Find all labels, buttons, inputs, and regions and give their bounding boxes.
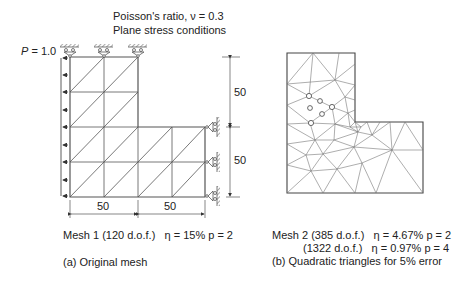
node-circle-icon [308,120,313,125]
roller-support-icon [206,152,220,172]
plane-stress-label: Plane stress conditions [113,24,226,37]
mesh2-caption-p2: Mesh 2 (385 d.o.f.) η = 4.67% p = 2 [272,229,451,242]
refined-mesh [287,53,423,193]
horizontal-dimensions [70,200,205,218]
load-label: P = 1.0 [21,45,56,58]
node-circle-icon [308,106,313,111]
mesh2-subcaption: (b) Quadratic triangles for 5% error [272,255,442,268]
poisson-ratio-label: Poisson's ratio, ν = 0.3 [113,10,224,23]
top-supports [60,44,147,57]
roller-support-icon [206,117,220,137]
mesh2-marker-circles [306,93,334,125]
dim-width-left: 50 [97,200,109,213]
mesh2-caption-p4: (1322 d.o.f.) η = 0.97% p = 4 [303,242,449,255]
right-supports [206,117,220,206]
mesh1-caption: Mesh 1 (120 d.o.f.) η = 15% p = 2 [63,229,233,242]
roller-support-icon [60,44,79,57]
dim-width-right: 50 [164,200,176,213]
vertical-dimensions [222,57,240,197]
node-circle-icon [318,99,323,104]
dim-height-bottom: 50 [234,154,246,167]
node-circle-icon [306,93,311,98]
load-value: = 1.0 [28,45,56,57]
roller-support-icon [206,186,220,206]
roller-support-icon [128,44,147,57]
dim-height-top: 50 [234,86,246,99]
roller-support-icon [94,44,113,57]
load-arrows [61,58,68,196]
original-mesh [70,57,205,197]
node-circle-icon [320,112,325,117]
node-circle-icon [329,104,334,109]
mesh1-subcaption: (a) Original mesh [63,256,147,269]
